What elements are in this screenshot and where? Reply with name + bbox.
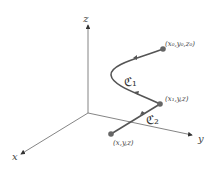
y-axis-label: y — [197, 133, 204, 144]
point-middle — [157, 101, 163, 107]
label-start: (x₀,y₀,z₀) — [165, 40, 195, 48]
x-axis — [21, 113, 88, 154]
label-end: (x,y,z) — [113, 139, 134, 147]
path-diagram: z y x (x₀,y₀,z₀) (x₁,y,z) (x,y,z) ℭ₁ ℭ₂ — [0, 0, 210, 170]
label-c2: ℭ₂ — [146, 113, 159, 127]
point-end — [108, 131, 114, 137]
x-axis-label: x — [12, 151, 18, 162]
label-middle: (x₁,y,z) — [165, 95, 189, 103]
label-c1: ℭ₁ — [124, 75, 137, 89]
z-axis-label: z — [82, 13, 89, 24]
